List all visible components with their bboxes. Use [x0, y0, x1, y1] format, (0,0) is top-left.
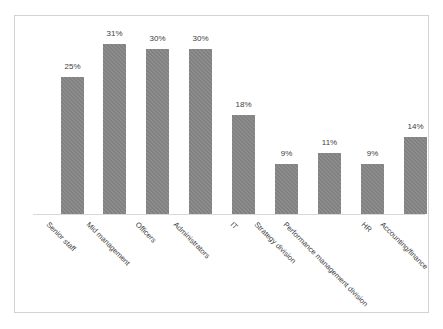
bar-chart-figure: 25% 31% 30% 30% 18% 9%	[0, 0, 443, 329]
category-axis-labels: Senior staff Mid management Officers Adm…	[33, 216, 425, 326]
bar-rect[interactable]	[232, 115, 255, 214]
category-label: Mid management	[85, 220, 132, 267]
plot-area: 25% 31% 30% 30% 18% 9%	[33, 22, 425, 214]
bar-rect[interactable]	[61, 77, 84, 214]
category-axis-line	[33, 214, 425, 215]
bar-value-label: 9%	[367, 149, 379, 159]
bar-rect[interactable]	[404, 137, 427, 214]
bar-rect[interactable]	[318, 153, 341, 214]
bar-rect[interactable]	[189, 49, 212, 214]
bar-rect[interactable]	[103, 44, 126, 214]
bar-rect[interactable]	[146, 49, 169, 214]
bar-value-label: 30%	[192, 34, 208, 44]
category-label: HR	[360, 220, 374, 234]
category-label: Performance management division	[282, 220, 370, 308]
category-label: Administrators	[172, 220, 212, 260]
bar-value-label: 9%	[281, 149, 293, 159]
bar-value-label: 31%	[106, 29, 122, 39]
category-label: Accounting/finance	[379, 220, 430, 271]
category-label: Senior staff	[45, 220, 78, 253]
category-label: IT	[229, 220, 240, 231]
chart-frame: 25% 31% 30% 30% 18% 9%	[14, 15, 429, 313]
bar-value-label: 18%	[235, 100, 251, 110]
category-label: Officers	[134, 220, 159, 245]
bar-value-label: 14%	[407, 122, 423, 132]
bar-rect[interactable]	[275, 164, 298, 214]
bar-rect[interactable]	[361, 164, 384, 214]
bar-value-label: 11%	[322, 138, 337, 148]
bar-value-label: 30%	[149, 34, 165, 44]
bar-value-label: 25%	[64, 62, 80, 72]
